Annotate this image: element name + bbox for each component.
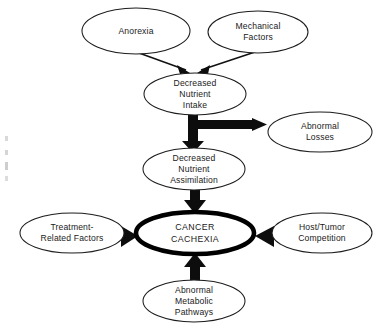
node-abnormal-losses-label-line-2: Losses <box>306 132 334 142</box>
node-decreased-nutrient-assimilation-label-line-2: Nutrient <box>178 164 210 174</box>
node-anorexia[interactable]: Anorexia <box>82 8 190 54</box>
node-treatment-related-factors[interactable]: Treatment- Related Factors <box>20 213 124 253</box>
node-abnormal-metabolic-pathways-label-line-2: Metabolic <box>175 296 214 306</box>
edge-intake-to-assimilation <box>182 112 204 153</box>
node-decreased-nutrient-intake-label-line-2: Nutrient <box>179 89 211 99</box>
node-decreased-nutrient-assimilation-label-line-3: Assimilation <box>170 175 218 185</box>
diagram-svg: Anorexia Mechanical Factors Decreased Nu… <box>0 0 382 328</box>
node-cancer-cachexia-label-line-2: CACHEXIA <box>171 234 219 244</box>
node-decreased-nutrient-assimilation-label-line-1: Decreased <box>173 153 216 163</box>
node-cancer-cachexia-shape <box>136 212 254 254</box>
edge-intake-to-abnormal-losses <box>193 118 267 131</box>
node-abnormal-losses-label-line-1: Abnormal <box>301 121 339 131</box>
node-anorexia-label-line-1: Anorexia <box>118 26 153 36</box>
diagram-canvas: Anorexia Mechanical Factors Decreased Nu… <box>0 0 382 328</box>
node-abnormal-metabolic-pathways[interactable]: Abnormal Metabolic Pathways <box>143 280 245 322</box>
node-mechanical-factors[interactable]: Mechanical Factors <box>208 11 308 53</box>
node-abnormal-losses[interactable]: Abnormal Losses <box>268 112 372 152</box>
node-mechanical-factors-label-line-1: Mechanical <box>236 21 281 31</box>
node-cancer-cachexia-label-line-1: CANCER <box>175 222 215 232</box>
node-mechanical-factors-label-line-2: Factors <box>243 32 273 42</box>
node-treatment-related-factors-label-line-1: Treatment- <box>50 222 93 232</box>
node-host-tumor-competition[interactable]: Host/Tumor Competition <box>272 213 372 253</box>
edge-mechanical-to-intake <box>197 50 261 74</box>
node-host-tumor-competition-label-line-1: Host/Tumor <box>299 222 345 232</box>
node-abnormal-metabolic-pathways-label-line-3: Pathways <box>175 307 213 317</box>
node-decreased-nutrient-intake-label-line-3: Intake <box>183 100 207 110</box>
node-decreased-nutrient-intake[interactable]: Decreased Nutrient Intake <box>144 73 246 115</box>
node-treatment-related-factors-label-line-2: Related Factors <box>41 233 104 243</box>
scan-artifacts <box>5 136 8 181</box>
node-abnormal-metabolic-pathways-label-line-1: Abnormal <box>175 285 213 295</box>
node-host-tumor-competition-label-line-2: Competition <box>298 233 346 243</box>
node-decreased-nutrient-assimilation[interactable]: Decreased Nutrient Assimilation <box>143 148 245 190</box>
edge-metabolic-to-cachexia <box>184 253 206 282</box>
node-cancer-cachexia[interactable]: CANCER CACHEXIA <box>136 212 254 254</box>
node-decreased-nutrient-intake-label-line-1: Decreased <box>174 78 217 88</box>
